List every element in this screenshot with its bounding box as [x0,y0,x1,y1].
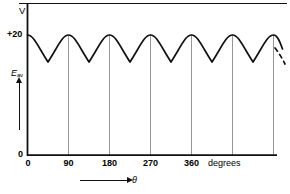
x-tick-label-180: 180 [102,158,117,168]
x-tick-label-360: 360 [184,158,199,168]
rectifier-waveform-figure: V +20 0 Eav 0 90 180 270 360 degrees θ [0,0,290,194]
x-tick-label-90: 90 [63,158,73,168]
x-axis-direction-arrow [80,180,128,181]
gridlines [69,35,274,155]
x-axis-unit-label: degrees [208,158,241,168]
x-tick-label-0: 0 [25,158,30,168]
waveform-curve [28,35,283,62]
x-tick-label-270: 270 [143,158,158,168]
x-axis-symbol: θ [132,175,137,185]
waveform-break-dash [275,48,285,64]
